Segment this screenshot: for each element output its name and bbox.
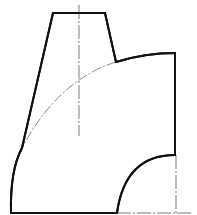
- hidden-intersection-arc: [22, 62, 116, 148]
- left-outer-curve: [11, 13, 53, 213]
- inner-elbow-arc: [117, 155, 175, 213]
- drawing-canvas: reducing elbow / transition piece (ortho…: [0, 0, 197, 215]
- top-neck-trapezoid: [53, 13, 116, 62]
- part-outline: [11, 13, 175, 213]
- outer-elbow-arc: [116, 53, 175, 62]
- technical-drawing: [0, 0, 197, 215]
